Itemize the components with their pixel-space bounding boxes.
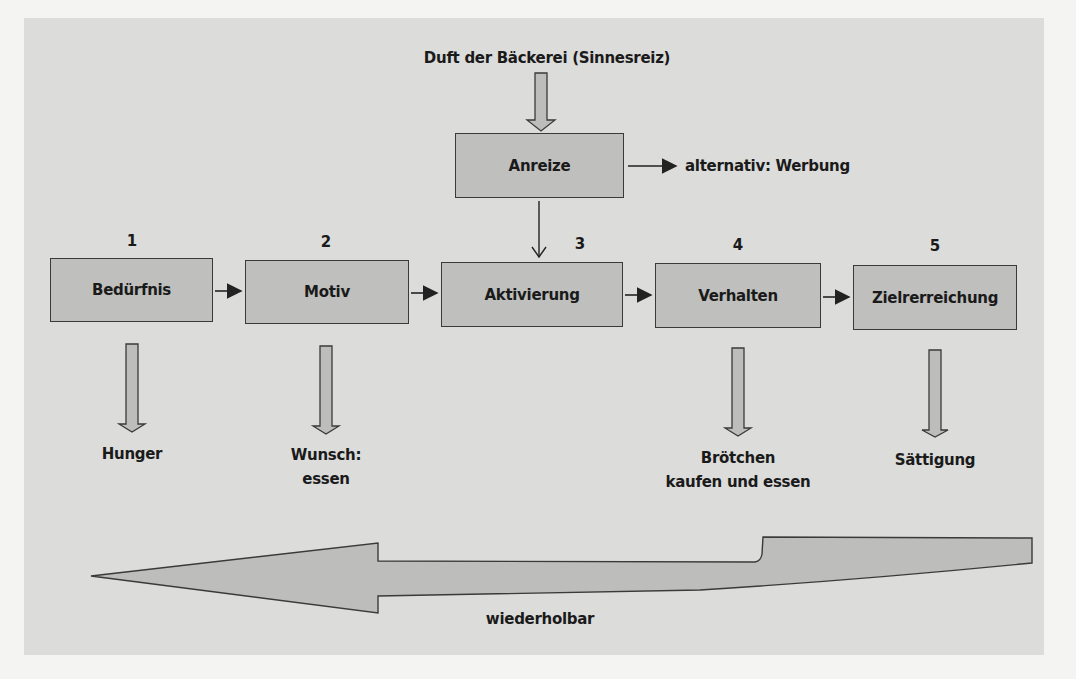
step-number: 4 xyxy=(728,236,748,254)
incentive-box: Anreize xyxy=(455,133,624,198)
diagram-connectors xyxy=(0,0,1076,679)
step-number: 1 xyxy=(122,232,142,250)
step-box-motiv: Motiv xyxy=(245,260,409,324)
result-broetchen-line1: Brötchen xyxy=(648,446,828,471)
stimulus-label: Duft der Bäckerei (Sinnesreiz) xyxy=(400,46,694,71)
result-arrow-icon xyxy=(725,348,751,436)
result-hunger: Hunger xyxy=(72,442,192,467)
step-number: 3 xyxy=(570,235,590,253)
step-box-beduerfnis: Bedürfnis xyxy=(50,258,213,322)
result-arrow-icon xyxy=(922,350,948,437)
step-number: 5 xyxy=(925,237,945,255)
result-arrow-icon xyxy=(119,344,145,432)
step-box-zielerreichung: Zielrerreichung xyxy=(853,265,1017,330)
result-arrow-icon xyxy=(313,346,339,434)
alternative-label: alternativ: Werbung xyxy=(685,154,850,179)
cycle-label: wiederholbar xyxy=(460,607,620,632)
stimulus-arrow-icon xyxy=(527,73,555,131)
result-wunsch-line1: Wunsch: xyxy=(266,443,386,468)
step-box-aktivierung: Aktivierung xyxy=(441,262,623,327)
cycle-arrow-icon xyxy=(91,537,1032,613)
result-saettigung: Sättigung xyxy=(875,448,995,473)
step-box-verhalten: Verhalten xyxy=(655,263,821,328)
arrow-down-icon xyxy=(532,201,546,257)
step-number: 2 xyxy=(316,233,336,251)
result-broetchen-line2: kaufen und essen xyxy=(648,470,828,495)
result-wunsch-line2: essen xyxy=(266,467,386,492)
